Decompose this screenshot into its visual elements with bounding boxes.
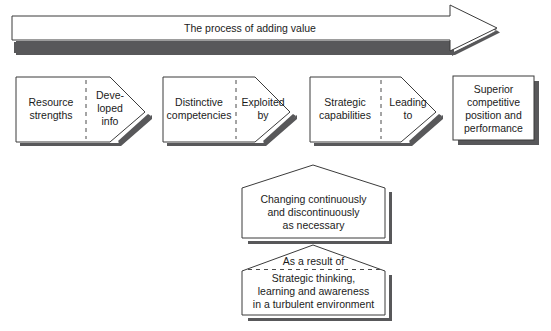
callout-strategic-thinking[interactable]: As a result of Strategic thinking, learn… xyxy=(242,245,392,321)
stage-1-connector-label-line-1: Deve- xyxy=(96,89,125,101)
callout-changing-continuously[interactable]: Changing continuously and discontinuousl… xyxy=(242,165,392,244)
process-banner-label: The process of adding value xyxy=(184,22,316,34)
callout-2-body-line-3: in a turbulent environment xyxy=(253,298,374,310)
stage-1-connector-label-line-3: info xyxy=(102,115,119,127)
stage-1-main-label-line-2: strengths xyxy=(29,109,72,121)
stage-4-main-label-line-4: performance xyxy=(464,122,523,134)
callout-1-body-line-1: Changing continuously xyxy=(260,193,367,205)
value-process-diagram: The process of adding value Resource str… xyxy=(0,0,551,331)
callout-2-header-label: As a result of xyxy=(283,255,344,267)
callout-2-body-line-2: learning and awareness xyxy=(258,285,370,297)
stage-3-main-label-line-2: capabilities xyxy=(319,109,371,121)
stage-2-connector-label-line-2: by xyxy=(257,109,269,121)
stage-3-connector-label-line-2: to xyxy=(404,109,413,121)
stage-1-main-label-line-1: Resource xyxy=(29,96,74,108)
stage-superior-competitive-position[interactable]: Superior competitive position and perfor… xyxy=(453,76,539,145)
stage-3-connector-label-line-1: Leading xyxy=(389,96,427,108)
stage-3-main-label-line-1: Strategic xyxy=(324,96,365,108)
stage-4-main-label-line-2: competitive xyxy=(467,96,520,108)
stage-distinctive-competencies[interactable]: Distinctive competencies Exploited by xyxy=(163,77,297,146)
callout-1-body-line-2: and discontinuously xyxy=(267,206,360,218)
stage-4-main-label-line-3: position and xyxy=(465,109,522,121)
callout-1-body-line-3: as necessary xyxy=(283,219,346,231)
stage-2-main-label-line-2: competencies xyxy=(167,109,232,121)
stage-1-connector-label-line-2: loped xyxy=(97,102,123,114)
stage-resource-strengths[interactable]: Resource strengths Deve- loped info xyxy=(16,77,152,146)
callout-2-body-line-1: Strategic thinking, xyxy=(272,272,355,284)
stage-2-connector-label-line-1: Exploited xyxy=(241,96,284,108)
stage-4-main-label-line-1: Superior xyxy=(474,83,514,95)
stage-strategic-capabilities[interactable]: Strategic capabilities Leading to xyxy=(310,77,443,146)
process-banner-group: The process of adding value xyxy=(12,5,500,56)
stage-2-main-label-line-1: Distinctive xyxy=(175,96,223,108)
